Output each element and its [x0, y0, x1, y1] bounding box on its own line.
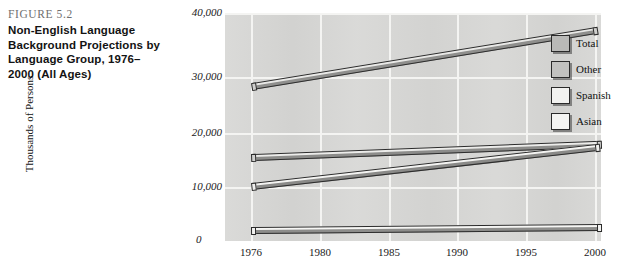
- legend-swatch-other-icon: [551, 61, 570, 78]
- gridline-y-10000: [225, 187, 601, 189]
- y-tick-label-20000: 20,000: [160, 126, 222, 138]
- legend-item-spanish[interactable]: Spanish: [551, 84, 611, 106]
- x-tick-label-1985: 1985: [367, 246, 411, 258]
- y-axis-title: Thousands of Persons: [23, 49, 35, 199]
- legend-label-spanish: Spanish: [576, 89, 611, 101]
- ribbon-cap-left-spanish: [251, 183, 257, 192]
- ribbon-cap-right-spanish: [595, 144, 601, 153]
- gridline-x-1976: [251, 13, 253, 241]
- legend-item-asian[interactable]: Asian: [551, 110, 611, 132]
- y-tick-label-zero: 0: [196, 233, 202, 245]
- legend-label-other: Other: [576, 63, 601, 75]
- ribbon-cap-left-total: [251, 82, 257, 91]
- ribbon-cap-left-other: [251, 154, 256, 162]
- chart-legend: Total Other Spanish Asian: [551, 32, 611, 136]
- ribbon-cap-left-asian: [251, 227, 256, 235]
- legend-swatch-spanish-icon: [551, 87, 570, 104]
- legend-item-other[interactable]: Other: [551, 58, 611, 80]
- gridline-y-40000: [225, 13, 601, 15]
- x-tick-label-2000: 2000: [573, 246, 617, 258]
- y-tick-label-30000: 30,000: [160, 70, 222, 82]
- legend-item-total[interactable]: Total: [551, 32, 611, 54]
- x-tick-label-1976: 1976: [229, 246, 273, 258]
- legend-swatch-asian-icon: [551, 113, 570, 130]
- legend-label-total: Total: [576, 37, 598, 49]
- page-bleed-text: [20, 262, 580, 274]
- gridline-x-1990: [457, 13, 459, 241]
- legend-label-asian: Asian: [576, 115, 602, 127]
- gridline-x-1995: [526, 13, 528, 241]
- x-tick-label-1995: 1995: [504, 246, 548, 258]
- x-tick-label-1990: 1990: [435, 246, 479, 258]
- x-tick-label-1980: 1980: [298, 246, 342, 258]
- chart: Thousands of Persons 40,000 30,000 20,00…: [0, 0, 639, 274]
- plot-area: [225, 13, 601, 241]
- gridline-x-1980: [320, 13, 322, 241]
- ribbon-cap-right-asian: [597, 224, 602, 232]
- y-tick-label-40000: 40,000: [160, 6, 222, 18]
- y-tick-label-10000: 10,000: [160, 180, 222, 192]
- gridline-x-1985: [389, 13, 391, 241]
- legend-swatch-total-icon: [551, 35, 570, 52]
- gridline-y-20000: [225, 133, 601, 135]
